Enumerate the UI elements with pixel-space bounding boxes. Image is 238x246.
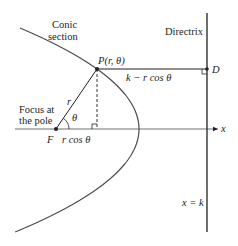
distance-pd-label: k − r cos θ [126, 72, 172, 83]
directrix-equation-label: x = k [181, 197, 204, 208]
point-p-label: P(r, θ) [97, 55, 125, 67]
focus-f-label: F [46, 134, 54, 145]
conic-label-line1: Conic [52, 19, 77, 30]
conic-diagram: Conic section Directrix P(r, θ) D k − r … [0, 0, 238, 246]
focus-label-line2: the pole [19, 115, 53, 126]
theta-arc [63, 118, 69, 129]
directrix-label: Directrix [165, 26, 204, 37]
point-p [95, 67, 99, 71]
right-angle-marker-axis [92, 124, 97, 129]
point-d [205, 67, 209, 71]
theta-label: θ [72, 112, 77, 123]
x-axis-label: x [220, 123, 226, 134]
conic-label-line2: section [48, 31, 78, 42]
focus-label-line1: Focus at [19, 104, 54, 115]
r-label: r [67, 96, 72, 107]
point-focus [54, 127, 58, 131]
r-cos-theta-label: r cos θ [62, 134, 91, 145]
point-d-label: D [211, 64, 220, 75]
